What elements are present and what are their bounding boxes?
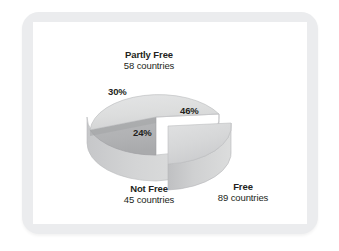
chart-stage: 30% 46% 24% Partly Free 58 countries Not… [33, 22, 307, 224]
slice-group-free [168, 123, 231, 190]
slice-percent-free: 46% [180, 105, 199, 116]
pie-chart-figure: 30% 46% 24% Partly Free 58 countries Not… [0, 0, 339, 251]
label-partly-free-count: 58 countries [89, 60, 209, 71]
label-free: Free 89 countries [183, 181, 303, 203]
slice-percent-partly-free: 30% [108, 86, 127, 97]
label-partly-free: Partly Free 58 countries [89, 49, 209, 71]
label-free-name: Free [183, 181, 303, 192]
label-free-count: 89 countries [183, 192, 303, 203]
label-partly-free-name: Partly Free [89, 49, 209, 60]
slice-percent-not-free: 24% [133, 127, 152, 138]
